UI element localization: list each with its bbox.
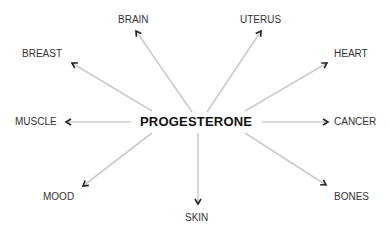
node-heart: HEART: [334, 49, 368, 59]
node-bones: BONES: [334, 192, 369, 202]
node-mood: MOOD: [43, 192, 74, 202]
arrow-to-heart: [245, 63, 327, 111]
arrow-to-bones: [245, 133, 326, 185]
node-breast: BREAST: [22, 49, 62, 59]
arrow-to-brain: [136, 31, 192, 112]
node-brain: BRAIN: [118, 15, 149, 25]
node-uterus: UTERUS: [240, 15, 281, 25]
arrow-to-mood: [83, 133, 152, 186]
node-skin: SKIN: [185, 213, 208, 223]
node-muscle: MUSCLE: [15, 117, 57, 127]
arrow-to-uterus: [207, 31, 261, 112]
node-cancer: CANCER: [334, 117, 376, 127]
arrow-to-breast: [72, 63, 152, 111]
center-node-progesterone: PROGESTERONE: [140, 115, 252, 128]
